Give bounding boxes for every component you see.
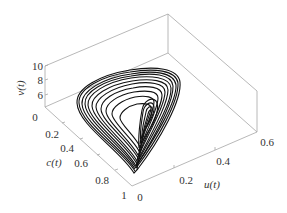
c-axis: 0 0.2 0.4 0.6 0.8 1 c(t) xyxy=(32,111,127,201)
attractor-trajectory xyxy=(77,68,180,173)
v-tick-label: 6 xyxy=(38,89,44,101)
u-axis-label: u(t) xyxy=(204,178,220,191)
c-tick-label: 0.4 xyxy=(60,142,74,154)
c-tick-label: 1 xyxy=(121,189,127,201)
c-tick-label: 0.2 xyxy=(45,128,59,140)
c-axis-label: c(t) xyxy=(46,156,62,169)
u-axis: 0 0.2 0.4 0.6 u(t) xyxy=(137,136,274,203)
attractor-3d-plot: v(t) 10 8 6 0 0.2 0.4 0.6 0.8 1 c(t) 0 0… xyxy=(0,0,287,213)
u-tick-label: 0.2 xyxy=(179,174,193,186)
u-tick-label: 0.6 xyxy=(260,136,274,148)
v-tick-label: 10 xyxy=(32,60,44,72)
u-tick-label: 0.4 xyxy=(216,155,230,167)
c-tick-label: 0 xyxy=(32,111,38,123)
c-tick-label: 0.6 xyxy=(74,157,88,169)
c-tick-label: 0.8 xyxy=(95,174,109,186)
v-tick-label: 8 xyxy=(38,74,44,86)
v-axis-label: v(t) xyxy=(14,80,27,96)
u-tick-label: 0 xyxy=(137,191,143,203)
v-axis: v(t) 10 8 6 xyxy=(14,60,44,101)
